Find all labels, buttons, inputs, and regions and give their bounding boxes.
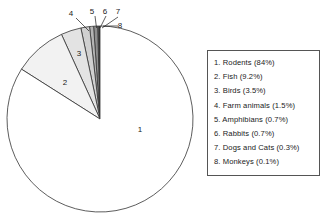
legend-entry: 8. Monkeys (0.1%) (214, 155, 314, 169)
pie-callout-number-4: 4 (69, 9, 74, 18)
pie-chart-graphic: 123 45678 (0, 0, 200, 224)
pie-slice-number-1: 1 (138, 125, 143, 134)
legend-entry: 4. Farm animals (1.5%) (214, 99, 314, 113)
legend-entry: 6. Rabbits (0.7%) (214, 127, 314, 141)
pie-slices-group (7, 26, 193, 212)
pie-slice-number-3: 3 (77, 49, 82, 58)
legend-entry: 2. Fish (9.2%) (214, 70, 314, 84)
legend-box: 1. Rodents (84%)2. Fish (9.2%)3. Birds (… (207, 50, 320, 176)
pie-callout-number-5: 5 (90, 7, 95, 16)
pie-chart-figure: 123 45678 1. Rodents (84%)2. Fish (9.2%)… (0, 0, 326, 224)
legend-entry: 5. Amphibians (0.7%) (214, 113, 314, 127)
pie-callout-number-7: 7 (116, 7, 121, 16)
legend-entry: 1. Rodents (84%) (214, 56, 314, 70)
legend-entry: 3. Birds (3.5%) (214, 84, 314, 98)
legend-entry: 7. Dogs and Cats (0.3%) (214, 141, 314, 155)
pie-callout-number-6: 6 (103, 7, 108, 16)
pie-callout-number-8: 8 (118, 21, 123, 30)
pie-slice-number-2: 2 (63, 78, 68, 87)
